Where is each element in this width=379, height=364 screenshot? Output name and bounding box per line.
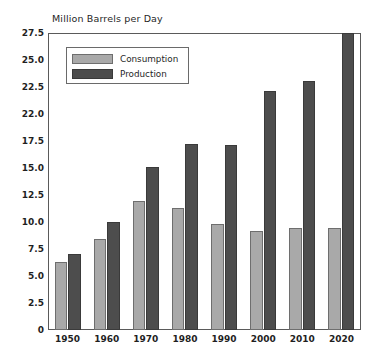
bar-group bbox=[289, 33, 315, 330]
y-axis-tick-label: 2.5 bbox=[28, 298, 44, 308]
y-axis-tick-label: 27.5 bbox=[22, 28, 44, 38]
bar-group bbox=[250, 33, 276, 330]
bar-consumption-2020 bbox=[328, 228, 341, 330]
y-axis-tick-label: 22.5 bbox=[22, 82, 44, 92]
bar-production-1980 bbox=[185, 144, 198, 330]
chart-legend: Consumption Production bbox=[66, 47, 189, 84]
y-axis-tick-label: 0 bbox=[38, 325, 44, 335]
y-axis-tick-labels: 27.525.022.522.017.515.012.510.07.55.02.… bbox=[0, 0, 44, 364]
legend-item-consumption: Consumption bbox=[72, 53, 178, 64]
bar-production-1990 bbox=[225, 145, 238, 330]
bar-consumption-1970 bbox=[133, 201, 146, 330]
legend-item-production: Production bbox=[72, 68, 167, 79]
legend-swatch-consumption bbox=[72, 54, 113, 64]
x-axis-tick-label: 1970 bbox=[133, 334, 158, 344]
legend-label-consumption: Consumption bbox=[120, 54, 178, 64]
y-axis-tick-label: 5.0 bbox=[28, 271, 44, 281]
y-axis-tick-label: 7.5 bbox=[28, 244, 44, 254]
y-axis-tick-label: 25.0 bbox=[22, 55, 44, 65]
bar-consumption-1950 bbox=[55, 262, 68, 330]
bar-consumption-1980 bbox=[172, 208, 185, 330]
chart-axis-title: Million Barrels per Day bbox=[52, 13, 163, 24]
bar-group bbox=[211, 33, 237, 330]
bar-consumption-1990 bbox=[211, 224, 224, 330]
bar-chart: Million Barrels per Day 27.525.022.522.0… bbox=[0, 0, 379, 364]
y-axis-tick-label: 12.5 bbox=[22, 190, 44, 200]
bar-consumption-1960 bbox=[94, 239, 107, 330]
y-axis-tick-label: 17.5 bbox=[22, 136, 44, 146]
x-axis-tick-label: 2000 bbox=[251, 334, 276, 344]
x-axis-tick-label: 1960 bbox=[94, 334, 119, 344]
bar-consumption-2000 bbox=[250, 231, 263, 330]
bar-production-2000 bbox=[264, 91, 277, 330]
bar-group bbox=[328, 33, 354, 330]
bar-production-2010 bbox=[303, 81, 316, 330]
y-axis-tick-label: 10.0 bbox=[22, 217, 44, 227]
x-axis-tick-label: 1980 bbox=[172, 334, 197, 344]
x-axis-tick-label: 1950 bbox=[55, 334, 80, 344]
bar-production-1970 bbox=[146, 167, 159, 330]
x-axis-tick-label: 2010 bbox=[290, 334, 315, 344]
legend-swatch-production bbox=[72, 69, 113, 79]
y-axis-tick-label: 15.0 bbox=[22, 163, 44, 173]
y-axis-tick-label: 22.0 bbox=[22, 109, 44, 119]
legend-label-production: Production bbox=[120, 69, 167, 79]
bar-production-1960 bbox=[107, 222, 120, 330]
bar-production-2020 bbox=[342, 33, 355, 330]
bar-consumption-2010 bbox=[289, 228, 302, 330]
x-axis-tick-label: 2020 bbox=[329, 334, 354, 344]
bar-production-1950 bbox=[68, 254, 81, 330]
x-axis-tick-label: 1990 bbox=[212, 334, 237, 344]
